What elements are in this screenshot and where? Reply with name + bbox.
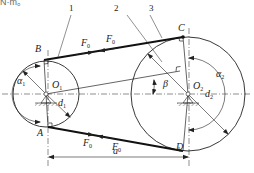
part-label-1: 1 [69, 4, 74, 13]
force-arrows [74, 48, 118, 139]
diameter-d2-label: d2 [205, 89, 213, 100]
point-c-dot [181, 35, 185, 39]
belt-drive-diagram [0, 0, 254, 173]
d2-arrow [188, 94, 228, 134]
angle-alpha1-label: α1 [17, 76, 25, 87]
point-b-label: B [35, 44, 41, 54]
point-c-label: C [178, 23, 185, 33]
point-d-label: D [176, 142, 183, 152]
angle-alpha2-label: α2 [216, 69, 224, 80]
clipped-header-text: N·m。 [0, 0, 26, 8]
center-o1-label: O1 [52, 80, 62, 91]
center-o2-label: O2 [193, 81, 203, 92]
beta-arc [153, 80, 154, 94]
d1-arrow-back [23, 71, 46, 94]
force-f0-bottom-left: F0 [83, 138, 92, 149]
part-label-3: 3 [149, 4, 154, 13]
angle-beta-label: β [163, 79, 168, 89]
part-label-2: 2 [114, 4, 119, 13]
force-f0-top-right: F0 [106, 34, 115, 45]
force-f0-top-left: F0 [81, 38, 90, 49]
diameter-d1-label: d1 [58, 98, 66, 109]
dimension-a-label: a [113, 146, 118, 156]
point-a-label: A [37, 128, 43, 138]
